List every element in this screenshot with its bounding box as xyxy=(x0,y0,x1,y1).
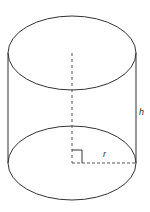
right-angle-marker xyxy=(72,150,82,163)
radius-label: r xyxy=(103,149,107,159)
cylinder-diagram: h r xyxy=(0,0,150,212)
height-label: h xyxy=(139,107,144,117)
